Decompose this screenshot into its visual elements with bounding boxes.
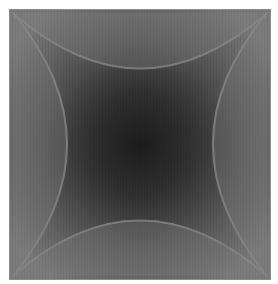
illusion-graphic bbox=[9, 9, 271, 280]
illusion-square: Gray square with dark radial center and … bbox=[9, 9, 271, 280]
